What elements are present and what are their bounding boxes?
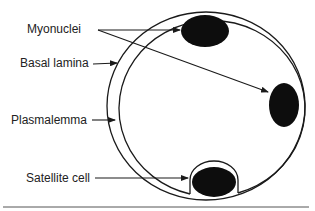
myonucleus-right xyxy=(269,83,299,127)
label-plasmalemma: Plasmalemma xyxy=(11,113,87,127)
label-basal-lamina: Basal lamina xyxy=(20,56,89,70)
label-myonuclei: Myonuclei xyxy=(27,22,81,36)
label-satellite-cell: Satellite cell xyxy=(26,171,90,185)
arrow-basal-lamina xyxy=(93,63,117,64)
myonucleus-top xyxy=(181,15,229,47)
muscle-fiber-diagram: Myonuclei Basal lamina Plasmalemma Satel… xyxy=(0,0,315,211)
satellite-cell-nucleus xyxy=(192,167,236,197)
